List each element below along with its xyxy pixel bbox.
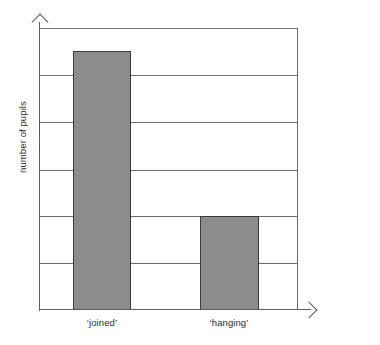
x-axis-line <box>39 309 311 310</box>
y-axis-label: number of pupils <box>14 92 32 182</box>
x-axis-arrow-icon <box>301 302 318 319</box>
gridline <box>40 28 298 29</box>
x-tick-label-hanging: ‘hanging’ <box>189 317 269 328</box>
y-axis-line <box>39 22 40 311</box>
chart-canvas: number of pupils ‘joined’ ‘hanging’ <box>0 0 380 345</box>
bar-hanging <box>200 216 259 310</box>
bar-joined <box>73 51 131 310</box>
plot-frame-right-edge <box>297 28 298 310</box>
x-tick-label-joined: ‘joined’ <box>62 317 142 328</box>
